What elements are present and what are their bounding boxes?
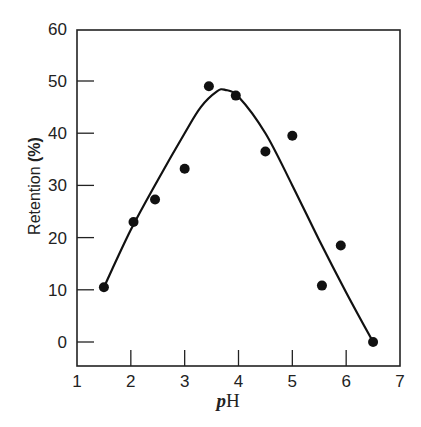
x-tick-label: 2 bbox=[126, 372, 135, 391]
x-axis-title: pH bbox=[214, 390, 240, 411]
y-tick-label: 60 bbox=[48, 20, 67, 39]
axis-ticks bbox=[77, 81, 346, 366]
data-point bbox=[287, 131, 297, 141]
data-point bbox=[99, 282, 109, 292]
y-tick-label: 10 bbox=[48, 281, 67, 300]
tick-labels: 01020304050601234567 bbox=[48, 20, 405, 391]
x-tick-label: 5 bbox=[288, 372, 297, 391]
retention-vs-ph-chart: 01020304050601234567 pH Retention (%) bbox=[0, 0, 421, 427]
y-tick-label: 0 bbox=[58, 333, 67, 352]
y-axis-title: Retention (%) bbox=[26, 137, 43, 235]
y-tick-label: 50 bbox=[48, 72, 67, 91]
x-tick-label: 1 bbox=[72, 372, 81, 391]
data-point bbox=[204, 81, 214, 91]
data-point bbox=[336, 240, 346, 250]
data-point bbox=[231, 91, 241, 101]
data-point bbox=[150, 194, 160, 204]
x-tick-label: 6 bbox=[341, 372, 350, 391]
data-point bbox=[180, 164, 190, 174]
data-point bbox=[129, 217, 139, 227]
y-tick-label: 20 bbox=[48, 229, 67, 248]
data-point bbox=[317, 281, 327, 291]
x-tick-label: 7 bbox=[395, 372, 404, 391]
data-point bbox=[260, 146, 270, 156]
data-points bbox=[99, 81, 378, 347]
y-tick-label: 40 bbox=[48, 124, 67, 143]
x-tick-label: 3 bbox=[180, 372, 189, 391]
y-tick-label: 30 bbox=[48, 176, 67, 195]
data-point bbox=[368, 337, 378, 347]
fitted-curve bbox=[104, 89, 373, 342]
x-tick-label: 4 bbox=[234, 372, 243, 391]
plot-frame bbox=[77, 30, 400, 366]
